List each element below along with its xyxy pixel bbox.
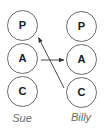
arrow-billy-child-to-sue-parent <box>39 38 65 89</box>
transaction-diagram: P A C P A C Sue Billy <box>0 0 106 132</box>
sue-name-label: Sue <box>2 113 42 124</box>
billy-name-label: Billy <box>61 112 101 123</box>
